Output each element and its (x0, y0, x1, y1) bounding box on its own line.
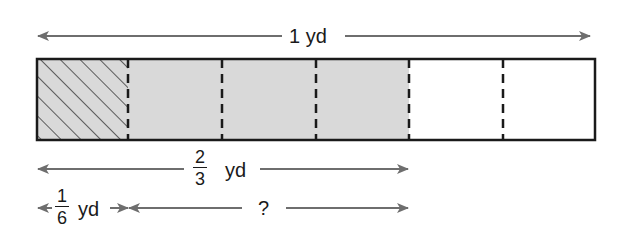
two-thirds-unit: yd (225, 160, 246, 180)
two-thirds-numerator: 2 (193, 148, 207, 168)
total-value: 1 (289, 25, 300, 47)
unknown-label: ? (258, 198, 269, 218)
two-thirds-denominator: 3 (195, 168, 205, 188)
one-sixth-unit: yd (78, 199, 99, 219)
segment-hatched (37, 59, 128, 140)
total-length-label: 1 yd (289, 26, 327, 46)
one-sixth-numerator: 1 (55, 187, 69, 207)
one-sixth-fraction: 1 6 (55, 187, 69, 227)
one-sixth-denominator: 6 (57, 207, 67, 227)
two-thirds-fraction: 2 3 (193, 148, 207, 188)
fraction-bar (37, 59, 595, 140)
total-unit: yd (306, 25, 327, 47)
segment-shaded (128, 59, 409, 140)
